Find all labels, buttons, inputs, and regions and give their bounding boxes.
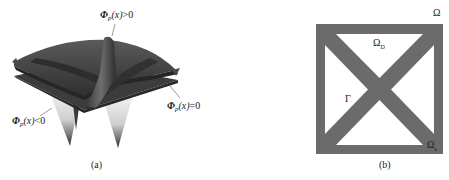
panel-b-design-domain: Ω ΩD Γ Ωs (b) — [250, 0, 449, 180]
panel-a-level-set-surface: Φp(x)>0 Φp(x)=0 Φp(x)<0 (a) — [0, 0, 230, 180]
caption-b: (b) — [379, 160, 391, 170]
label-phi-positive: Φp(x)>0 — [100, 10, 133, 22]
label-phi-negative: Φp(x)<0 — [12, 116, 45, 128]
label-omega-d: ΩD — [373, 38, 385, 50]
label-phi-zero: Φp(x)=0 — [167, 101, 200, 113]
design-domain-graphic — [250, 0, 449, 180]
label-gamma: Γ — [345, 94, 351, 104]
label-omega-s: Ωs — [427, 140, 437, 152]
caption-a: (a) — [91, 160, 102, 170]
label-omega: Ω — [433, 8, 440, 18]
level-set-surface-graphic — [0, 0, 230, 180]
